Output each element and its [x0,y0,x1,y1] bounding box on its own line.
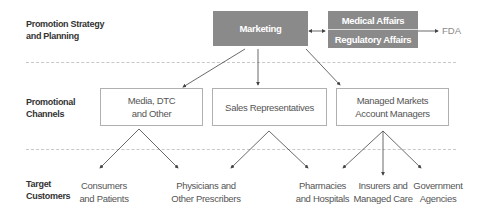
target-label: Other Prescribers [170,192,242,205]
regulatory-affairs-label: Regulatory Affairs [335,34,412,45]
channel-label: and Other [128,107,176,120]
target-label: Pharmacies [295,179,350,192]
medical-affairs-label: Medical Affairs [342,15,405,26]
target-pharmacies: Pharmaciesand Hospitals [295,179,350,205]
target-label: and Hospitals [295,192,350,205]
target-label: and Patients [74,192,134,205]
channel-managed-markets-box: Managed MarketsAccount Managers [336,88,449,126]
channel-media-box: Media, DTCand Other [100,88,203,126]
channel-label: Managed Markets [355,94,429,107]
target-physicians: Physicians andOther Prescribers [170,179,242,205]
medical-affairs-box: Medical Affairs [328,11,418,30]
channel-label: Media, DTC [128,94,176,107]
target-insurers: Insurers andManaged Care [353,179,413,205]
channel-label: Sales Representatives [225,101,314,114]
target-consumers: Consumersand Patients [74,179,134,205]
channel-label: Account Managers [355,107,429,120]
target-label: Managed Care [353,192,413,205]
regulatory-affairs-box: Regulatory Affairs [328,30,418,48]
target-label: Government [413,179,463,192]
marketing-label: Marketing [239,23,281,34]
target-label: Consumers [74,179,134,192]
target-label: Insurers and [353,179,413,192]
fda-label: FDA [442,25,461,36]
target-label: Physicians and [170,179,242,192]
target-label: Agencies [413,192,463,205]
channel-sales-box: Sales Representatives [212,88,327,126]
marketing-box: Marketing [213,11,308,46]
target-government: GovernmentAgencies [413,179,463,205]
